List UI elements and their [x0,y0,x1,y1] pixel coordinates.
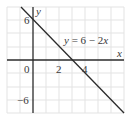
y-axis-label: y [35,5,41,17]
x-tick-2: 2 [56,63,62,75]
x-axis-label: x [116,47,122,59]
x-tick-4: 4 [82,63,88,75]
origin-label: 0 [24,63,30,75]
equation-x: x [102,34,108,46]
y-tick-neg6: −6 [17,94,29,106]
line-chart: y x 6 −6 0 2 4 y = 6 − 2x [0,0,131,115]
y-tick-6: 6 [24,14,30,26]
equation-annotation: y = 6 − 2x [63,34,108,46]
equation-body: = 6 − 2 [69,34,103,46]
